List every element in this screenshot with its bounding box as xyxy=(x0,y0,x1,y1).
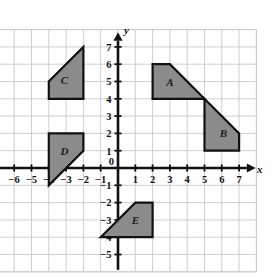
y-axis-name: y xyxy=(122,24,129,36)
x-tick-label-6: 6 xyxy=(219,174,224,185)
y-tick-label-7: 7 xyxy=(106,42,111,53)
plotted-shapes xyxy=(49,47,239,237)
shape-label-a: A xyxy=(165,76,173,88)
x-axis-name: x xyxy=(256,163,263,175)
x-tick-label-3: 3 xyxy=(167,174,172,185)
shape-label-b: B xyxy=(219,127,227,139)
x-tick-label--2: −2 xyxy=(78,174,89,185)
x-tick-label--5: −5 xyxy=(26,174,37,185)
x-tick-label-7: 7 xyxy=(236,174,241,185)
shape-label-e: E xyxy=(131,214,139,226)
x-tick-label--3: −3 xyxy=(60,174,71,185)
y-tick-label--1: −1 xyxy=(100,180,111,191)
coordinate-plane-figure: −6−5−4−3−2−11234567−5−4−3−2−112345670 AB… xyxy=(0,0,275,278)
x-tick-label-2: 2 xyxy=(150,174,155,185)
y-tick-label-5: 5 xyxy=(106,76,111,87)
shape-label-c: C xyxy=(61,74,69,86)
coordinate-plane-svg: −6−5−4−3−2−11234567−5−4−3−2−112345670 AB… xyxy=(0,0,275,278)
y-tick-label-6: 6 xyxy=(106,59,111,70)
x-tick-label--6: −6 xyxy=(9,174,20,185)
y-tick-label-3: 3 xyxy=(106,111,111,122)
y-tick-label-2: 2 xyxy=(106,128,111,139)
x-tick-label-4: 4 xyxy=(185,174,191,185)
x-tick-label-5: 5 xyxy=(202,174,207,185)
x-tick-label-1: 1 xyxy=(133,174,138,185)
origin-label: 0 xyxy=(109,156,114,167)
y-tick-label-4: 4 xyxy=(106,94,112,105)
y-tick-label--5: −5 xyxy=(100,249,111,260)
y-tick-label--3: −3 xyxy=(100,215,111,226)
y-tick-label--2: −2 xyxy=(100,197,111,208)
shape-label-d: D xyxy=(59,145,68,157)
